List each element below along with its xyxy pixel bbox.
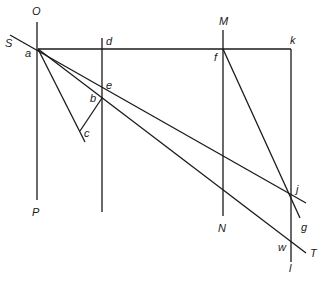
label-c: c bbox=[84, 127, 90, 139]
label-o: O bbox=[32, 5, 41, 17]
label-k: k bbox=[290, 34, 296, 46]
line-a-c bbox=[38, 49, 85, 142]
label-d: d bbox=[106, 35, 113, 47]
label-p: P bbox=[32, 206, 40, 218]
line-a-b-w-t bbox=[38, 49, 306, 253]
label-s: S bbox=[5, 37, 13, 49]
geometric-diagram: O P S a d e b c M N f k j g w T l bbox=[0, 0, 323, 281]
label-a: a bbox=[25, 47, 31, 59]
line-f-j-g bbox=[223, 49, 300, 218]
label-t: T bbox=[310, 247, 318, 259]
line-s-e-j bbox=[10, 35, 306, 203]
label-e: e bbox=[106, 79, 112, 91]
label-w: w bbox=[278, 241, 287, 253]
label-j: j bbox=[294, 183, 299, 195]
label-m: M bbox=[219, 15, 229, 27]
label-f: f bbox=[214, 51, 218, 63]
label-b: b bbox=[90, 92, 96, 104]
label-n: N bbox=[218, 222, 226, 234]
label-g: g bbox=[301, 221, 308, 233]
label-l: l bbox=[289, 262, 292, 274]
